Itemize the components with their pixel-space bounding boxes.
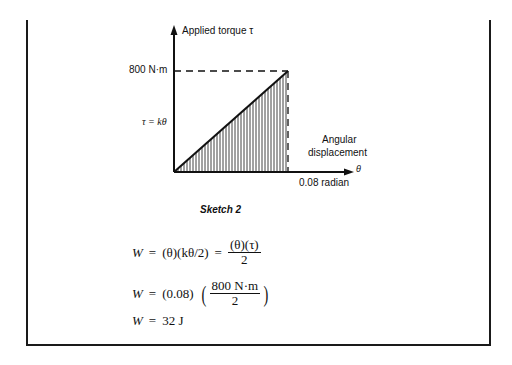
eq2-factor: (0.08): [162, 286, 193, 302]
x-axis-arrow-icon: [344, 169, 354, 176]
eq1-equals-2: =: [215, 245, 222, 261]
eq2-lhs: W: [132, 286, 143, 302]
eq1-numerator: (θ)(τ): [228, 238, 261, 253]
equation-3: W = 32 J: [132, 313, 190, 329]
line-equation-label: τ = kθ: [142, 116, 167, 127]
eq1-denominator: 2: [241, 253, 248, 267]
x-value-label: 0.08 radian: [299, 177, 349, 188]
left-paren-icon: (: [201, 282, 206, 306]
y-value-label: 800 N·m: [129, 64, 167, 75]
eq1-fraction: (θ)(τ) 2: [228, 238, 261, 267]
eq3-lhs: W: [132, 313, 143, 329]
x-axis-title-line1: Angular: [322, 134, 356, 145]
eq2-equals: =: [149, 286, 156, 302]
eq1-mid: (θ)(kθ/2): [162, 245, 208, 261]
eq1-equals: =: [149, 245, 156, 261]
y-axis-label: Applied torque τ: [182, 25, 253, 36]
equation-2: W = (0.08) ( 800 N·m 2 ): [132, 279, 270, 308]
equation-1: W = (θ)(kθ/2) = (θ)(τ) 2: [132, 238, 263, 267]
eq3-equals: =: [149, 313, 156, 329]
sketch-caption: Sketch 2: [200, 204, 241, 215]
torque-displacement-plot: [0, 0, 512, 200]
eq1-lhs: W: [132, 245, 143, 261]
y-axis-arrow-icon: [171, 25, 178, 35]
eq2-fraction: 800 N·m 2: [210, 279, 261, 308]
x-axis-symbol: θ: [356, 164, 361, 174]
eq3-result: 32 J: [162, 313, 183, 329]
right-paren-icon: ): [264, 282, 269, 306]
eq2-denominator: 2: [232, 294, 239, 308]
eq2-numerator: 800 N·m: [210, 279, 261, 294]
x-axis-title-line2: displacement: [308, 147, 367, 158]
